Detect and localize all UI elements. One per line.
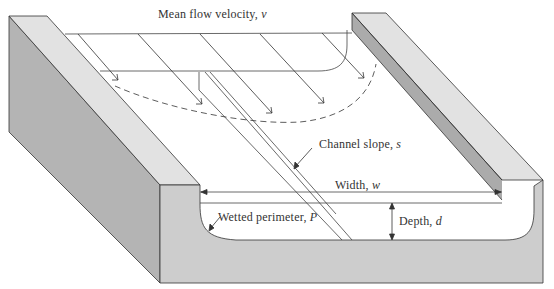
velocity-label-text: Mean flow velocity, (158, 7, 258, 21)
width-label: Width, w (335, 178, 380, 193)
slope-symbol: s (396, 137, 401, 151)
depth-symbol: d (436, 214, 442, 228)
perimeter-label: Wetted perimeter, P (218, 210, 317, 225)
perimeter-label-text: Wetted perimeter, (218, 210, 307, 224)
channel-diagram: Mean flow velocity, v Channel slope, s W… (0, 0, 554, 289)
depth-label-text: Depth, (399, 214, 433, 228)
slope-label-text: Channel slope, (319, 137, 393, 151)
depth-label: Depth, d (399, 214, 442, 229)
velocity-label: Mean flow velocity, v (158, 7, 267, 22)
velocity-symbol: v (261, 7, 267, 21)
channel-drawing (0, 0, 554, 289)
right-bank (352, 13, 543, 200)
perimeter-symbol: P (310, 210, 318, 224)
slope-label: Channel slope, s (319, 137, 401, 152)
velocity-profile-curve (115, 64, 376, 122)
width-symbol: w (372, 178, 380, 192)
dimension-arrows (201, 148, 501, 240)
width-label-text: Width, (335, 178, 369, 192)
